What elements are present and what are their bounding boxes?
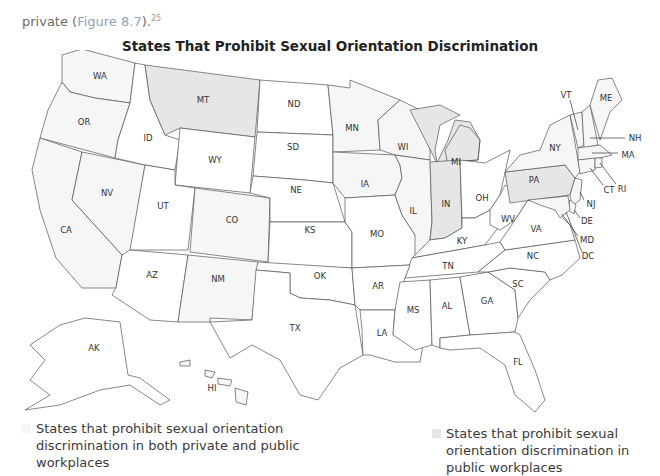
- svg-text:FL: FL: [513, 357, 523, 367]
- svg-text:TN: TN: [441, 261, 454, 271]
- svg-text:VT: VT: [560, 90, 572, 100]
- svg-text:MS: MS: [407, 305, 420, 315]
- state-fl[interactable]: [440, 332, 545, 412]
- svg-text:ND: ND: [288, 99, 301, 109]
- figure-link[interactable]: Figure 8.7: [77, 14, 142, 29]
- svg-text:DC: DC: [582, 251, 595, 261]
- svg-text:KS: KS: [305, 225, 316, 235]
- svg-text:IL: IL: [409, 206, 417, 216]
- svg-text:IN: IN: [442, 199, 451, 209]
- state-co[interactable]: [190, 188, 270, 262]
- svg-text:IA: IA: [361, 179, 370, 189]
- svg-text:ME: ME: [600, 93, 613, 103]
- svg-text:AL: AL: [442, 301, 453, 311]
- svg-text:NE: NE: [290, 185, 302, 195]
- svg-text:VA: VA: [530, 224, 541, 234]
- legend-swatch-public: [432, 429, 441, 438]
- svg-text:MA: MA: [621, 150, 634, 160]
- svg-text:DE: DE: [581, 216, 593, 226]
- state-ak[interactable]: [25, 318, 170, 410]
- svg-text:MI: MI: [451, 157, 461, 167]
- svg-text:NH: NH: [629, 133, 642, 143]
- svg-text:HI: HI: [208, 383, 217, 393]
- intro-text-before: private (: [22, 14, 77, 29]
- svg-text:SC: SC: [512, 279, 523, 289]
- svg-text:GA: GA: [481, 296, 494, 306]
- us-map: WA OR CA NV ID MT WY UT CO AZ NM ND SD N…: [0, 50, 660, 415]
- footnote-ref[interactable]: 25: [151, 14, 161, 23]
- svg-text:WI: WI: [398, 142, 409, 152]
- svg-text:WY: WY: [208, 155, 222, 165]
- svg-text:LA: LA: [377, 328, 388, 338]
- svg-text:WV: WV: [501, 214, 515, 224]
- svg-text:CT: CT: [603, 185, 615, 195]
- state-nm[interactable]: [178, 255, 258, 322]
- legend-item-both: States that prohibit sexual orientation …: [22, 420, 352, 471]
- svg-text:NC: NC: [527, 251, 539, 261]
- legend-swatch-both: [22, 424, 31, 433]
- svg-text:AK: AK: [88, 343, 100, 353]
- svg-text:NV: NV: [101, 188, 113, 198]
- svg-text:AR: AR: [372, 281, 384, 291]
- svg-text:TX: TX: [288, 323, 300, 333]
- svg-text:AZ: AZ: [146, 270, 158, 280]
- svg-text:KY: KY: [457, 236, 468, 246]
- svg-text:OR: OR: [78, 117, 91, 127]
- svg-text:NJ: NJ: [587, 199, 596, 209]
- svg-text:MD: MD: [580, 235, 594, 245]
- legend-item-public: States that prohibit sexual orientation …: [432, 425, 657, 476]
- state-ia[interactable]: [333, 152, 402, 198]
- intro-text-after: ).: [142, 14, 151, 29]
- legend-label-both: States that prohibit sexual orientation …: [36, 420, 352, 471]
- svg-text:NM: NM: [211, 274, 225, 284]
- intro-text: private (Figure 8.7).25: [22, 14, 161, 29]
- svg-text:WA: WA: [93, 71, 107, 81]
- state-az[interactable]: [112, 250, 188, 322]
- svg-text:OK: OK: [314, 271, 327, 281]
- legend-label-public: States that prohibit sexual orientation …: [446, 425, 657, 476]
- svg-text:RI: RI: [618, 184, 626, 194]
- svg-text:ID: ID: [143, 133, 153, 143]
- svg-text:MO: MO: [370, 229, 384, 239]
- svg-text:CA: CA: [60, 225, 72, 235]
- svg-text:MT: MT: [197, 95, 210, 105]
- svg-text:MN: MN: [345, 123, 359, 133]
- state-sd[interactable]: [253, 132, 333, 183]
- svg-text:CO: CO: [226, 215, 239, 225]
- svg-text:NY: NY: [549, 143, 561, 153]
- svg-text:SD: SD: [287, 142, 299, 152]
- svg-text:OH: OH: [475, 193, 488, 203]
- state-ri[interactable]: [595, 158, 602, 168]
- svg-text:UT: UT: [157, 201, 169, 211]
- svg-text:PA: PA: [529, 175, 540, 185]
